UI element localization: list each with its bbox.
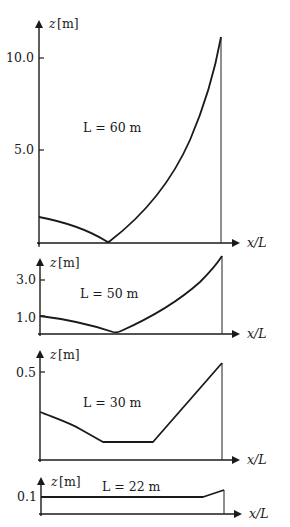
y-tick-label: 0.5	[16, 365, 36, 380]
y-axis-label-unit: [m]	[59, 474, 81, 489]
annotation: L = 50 m	[80, 286, 139, 301]
y-axis-label-var: z	[50, 474, 58, 489]
profile-curve	[39, 37, 221, 242]
y-axis-label-unit: [m]	[58, 255, 80, 270]
y-tick-label: 10.0	[6, 50, 34, 65]
y-axis-label-var: z	[48, 16, 56, 31]
figure: 10.0 5.0 z [m] x/L L = 60 m 3.0 1.0 z [m…	[0, 0, 290, 527]
y-axis-label-unit: [m]	[57, 16, 79, 31]
y-tick-label: 5.0	[14, 142, 34, 157]
chart-l22: 0.1 z [m] x/L L = 22 m	[17, 474, 269, 521]
chart-l50: 3.0 1.0 z [m] x/L L = 50 m	[16, 255, 267, 341]
x-axis-label: x/L	[247, 326, 267, 341]
y-axis-label-unit: [m]	[58, 347, 80, 362]
y-axis-label-var: z	[49, 347, 57, 362]
annotation: L = 22 m	[102, 479, 161, 494]
chart-l30: 0.5 z [m] x/L L = 30 m	[16, 347, 267, 467]
chart-l60: 10.0 5.0 z [m] x/L L = 60 m	[6, 16, 267, 250]
y-axis-label-var: z	[49, 255, 57, 270]
y-tick-label: 1.0	[16, 310, 36, 325]
annotation: L = 60 m	[83, 120, 142, 135]
y-tick-label: 3.0	[16, 272, 36, 287]
y-tick-label: 0.1	[17, 489, 37, 504]
x-axis-label: x/L	[249, 506, 269, 521]
x-axis-label: x/L	[247, 452, 267, 467]
x-axis-label: x/L	[247, 235, 267, 250]
annotation: L = 30 m	[83, 395, 142, 410]
